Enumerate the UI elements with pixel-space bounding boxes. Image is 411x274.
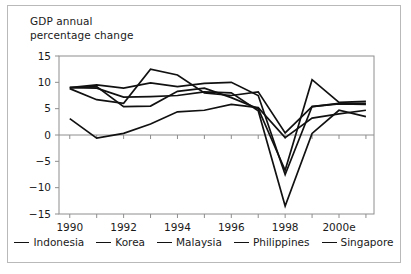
y-tick-label: 15	[38, 50, 51, 62]
line-swatch-icon	[157, 242, 172, 243]
legend-label: Malaysia	[176, 236, 222, 248]
legend-item-korea[interactable]: Korea	[96, 236, 145, 248]
series-line-philippines	[70, 104, 366, 138]
x-tick-label: 1990	[56, 221, 83, 233]
line-swatch-icon	[234, 242, 249, 243]
line-swatch-icon	[322, 242, 337, 243]
legend-label: Korea	[115, 236, 145, 248]
line-swatch-icon	[14, 242, 29, 243]
legend-item-indonesia[interactable]: Indonesia	[14, 236, 84, 248]
x-tick-label: 1994	[164, 221, 191, 233]
y-tick-label: 10	[38, 76, 51, 88]
x-tick-label: 1992	[110, 221, 137, 233]
legend-label: Singapore	[341, 236, 394, 248]
legend-item-philippines[interactable]: Philippines	[234, 236, 310, 248]
chart-legend: Indonesia Korea Malaysia Philippines Sin…	[8, 236, 400, 248]
legend-item-singapore[interactable]: Singapore	[322, 236, 394, 248]
y-tick-label: −15	[29, 208, 51, 220]
y-tick-label: 5	[44, 102, 51, 114]
legend-label: Philippines	[253, 236, 310, 248]
line-chart: 151050−5−10−15199019921994199619982000e	[8, 6, 402, 264]
y-tick-label: −10	[29, 181, 51, 193]
legend-label: Indonesia	[33, 236, 84, 248]
series-line-singapore	[70, 69, 366, 133]
series-line-malaysia	[70, 82, 366, 174]
plot-area: 151050−5−10−15199019921994199619982000e	[8, 6, 402, 264]
y-tick-label: 0	[44, 129, 51, 141]
y-tick-label: −5	[36, 155, 51, 167]
line-swatch-icon	[96, 242, 111, 243]
chart-figure: GDP annual percentage change 151050−5−10…	[7, 5, 401, 263]
x-tick-label: 1998	[272, 221, 299, 233]
x-tick-label: 2000e	[322, 221, 355, 233]
x-tick-label: 1996	[218, 221, 245, 233]
legend-item-malaysia[interactable]: Malaysia	[157, 236, 222, 248]
